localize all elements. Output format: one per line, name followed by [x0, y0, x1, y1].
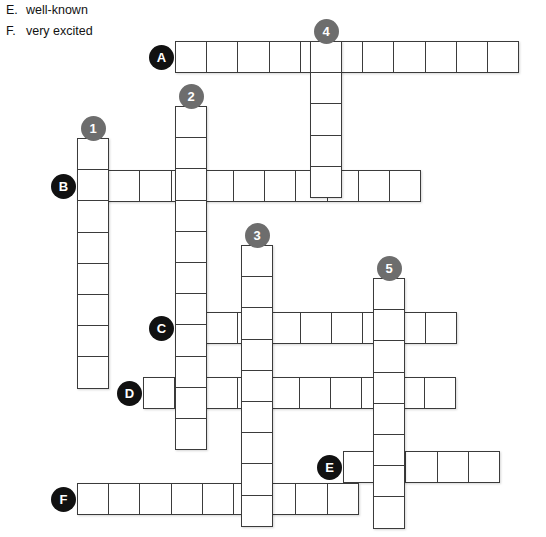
- crossword-cell[interactable]: [241, 276, 273, 308]
- word-c-across: [175, 312, 457, 344]
- crossword-cell[interactable]: [108, 170, 140, 202]
- word-b-across: [77, 170, 421, 202]
- crossword-cell[interactable]: [362, 41, 394, 73]
- crossword-cell[interactable]: [437, 451, 469, 483]
- crossword-cell[interactable]: [108, 483, 140, 515]
- word-4-down: [310, 41, 342, 198]
- crossword-cell[interactable]: [77, 356, 109, 388]
- crossword-cell[interactable]: [233, 170, 265, 202]
- crossword-cell[interactable]: [330, 377, 362, 409]
- marker-4: 4: [314, 19, 339, 44]
- marker-B: B: [51, 174, 76, 199]
- crossword-cell[interactable]: [295, 483, 327, 515]
- crossword-cell[interactable]: [175, 41, 207, 73]
- crossword-cell[interactable]: [77, 138, 109, 170]
- marker-3: 3: [245, 223, 270, 248]
- crossword-cell[interactable]: [241, 245, 273, 277]
- crossword-grid: ABCDEF12345: [0, 0, 546, 537]
- crossword-cell[interactable]: [175, 106, 207, 138]
- marker-D: D: [117, 381, 142, 406]
- crossword-cell[interactable]: [175, 387, 207, 419]
- word-1-down: [77, 138, 109, 389]
- crossword-cell[interactable]: [241, 339, 273, 371]
- crossword-cell[interactable]: [77, 483, 109, 515]
- crossword-cell[interactable]: [206, 312, 238, 344]
- crossword-cell[interactable]: [171, 483, 203, 515]
- crossword-cell[interactable]: [373, 496, 405, 528]
- word-e-across: [343, 451, 500, 483]
- crossword-cell[interactable]: [456, 41, 488, 73]
- crossword-cell[interactable]: [264, 170, 296, 202]
- crossword-cell[interactable]: [175, 231, 207, 263]
- marker-1: 1: [81, 116, 106, 141]
- marker-C: C: [149, 316, 174, 341]
- crossword-cell[interactable]: [143, 377, 175, 409]
- crossword-cell[interactable]: [202, 483, 234, 515]
- crossword-cell[interactable]: [373, 372, 405, 404]
- crossword-cell[interactable]: [241, 370, 273, 402]
- crossword-cell[interactable]: [373, 434, 405, 466]
- crossword-cell[interactable]: [393, 41, 425, 73]
- crossword-cell[interactable]: [389, 170, 421, 202]
- crossword-cell[interactable]: [77, 200, 109, 232]
- crossword-cell[interactable]: [175, 168, 207, 200]
- crossword-cell[interactable]: [139, 170, 171, 202]
- word-3-down: [241, 245, 273, 527]
- crossword-cell[interactable]: [358, 170, 390, 202]
- crossword-cell[interactable]: [175, 293, 207, 325]
- crossword-cell[interactable]: [425, 312, 457, 344]
- crossword-cell[interactable]: [175, 200, 207, 232]
- crossword-cell[interactable]: [310, 72, 342, 104]
- crossword-cell[interactable]: [175, 324, 207, 356]
- crossword-cell[interactable]: [487, 41, 519, 73]
- crossword-cell[interactable]: [343, 451, 375, 483]
- word-5-down: [373, 278, 405, 529]
- crossword-cell[interactable]: [241, 495, 273, 527]
- marker-F: F: [51, 487, 76, 512]
- crossword-cell[interactable]: [175, 137, 207, 169]
- crossword-cell[interactable]: [77, 169, 109, 201]
- crossword-cell[interactable]: [175, 356, 207, 388]
- marker-2: 2: [179, 84, 204, 109]
- word-2-down: [175, 106, 207, 450]
- crossword-cell[interactable]: [373, 403, 405, 435]
- crossword-cell[interactable]: [424, 377, 456, 409]
- crossword-cell[interactable]: [310, 135, 342, 167]
- crossword-cell[interactable]: [373, 309, 405, 341]
- crossword-cell[interactable]: [139, 483, 171, 515]
- crossword-cell[interactable]: [175, 418, 207, 450]
- word-a-across: [175, 41, 519, 73]
- crossword-cell[interactable]: [241, 432, 273, 464]
- crossword-cell[interactable]: [77, 232, 109, 264]
- crossword-cell[interactable]: [237, 41, 269, 73]
- marker-5: 5: [377, 256, 402, 281]
- crossword-cell[interactable]: [373, 340, 405, 372]
- word-f-across: [77, 483, 359, 515]
- crossword-cell[interactable]: [300, 312, 332, 344]
- crossword-cell[interactable]: [373, 278, 405, 310]
- crossword-cell[interactable]: [175, 262, 207, 294]
- crossword-cell[interactable]: [206, 41, 238, 73]
- marker-E: E: [317, 455, 342, 480]
- crossword-cell[interactable]: [310, 103, 342, 135]
- crossword-cell[interactable]: [269, 41, 301, 73]
- crossword-cell[interactable]: [310, 41, 342, 73]
- crossword-cell[interactable]: [77, 294, 109, 326]
- crossword-cell[interactable]: [269, 312, 301, 344]
- crossword-cell[interactable]: [241, 401, 273, 433]
- crossword-cell[interactable]: [299, 377, 331, 409]
- crossword-cell[interactable]: [425, 41, 457, 73]
- crossword-cell[interactable]: [405, 451, 437, 483]
- crossword-cell[interactable]: [373, 465, 405, 497]
- crossword-cell[interactable]: [241, 307, 273, 339]
- crossword-cell[interactable]: [77, 325, 109, 357]
- crossword-cell[interactable]: [327, 483, 359, 515]
- marker-A: A: [149, 45, 174, 70]
- crossword-cell[interactable]: [241, 463, 273, 495]
- crossword-cell[interactable]: [310, 166, 342, 198]
- crossword-cell[interactable]: [205, 377, 237, 409]
- crossword-cell[interactable]: [77, 263, 109, 295]
- crossword-cell[interactable]: [331, 312, 363, 344]
- crossword-cell[interactable]: [468, 451, 500, 483]
